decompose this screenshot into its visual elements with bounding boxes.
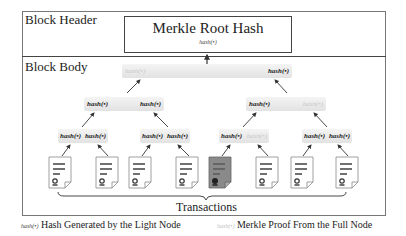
hash-generated-label: hash(•)	[329, 129, 350, 143]
tree-node-l3-4: hash(•) hash(•)	[302, 129, 352, 143]
legend-item-proof: hash(•) Merkle Proof From the Full Node	[217, 219, 372, 230]
hash-generated-label: hash(•)	[167, 129, 188, 143]
legend-generated-text: Hash Generated by the Light Node	[41, 219, 181, 230]
transaction-document-icon	[290, 156, 314, 189]
transaction-document-icon	[335, 156, 359, 189]
transaction-document-icon	[95, 156, 119, 189]
hash-generated-label: hash(•)	[268, 64, 289, 78]
transaction-document-icon	[48, 156, 72, 189]
legend-item-generated: hash(•) Hash Generated by the Light Node	[21, 219, 181, 230]
hash-generated-label: hash(•)	[142, 129, 163, 143]
hash-generated-label: hash(•)	[85, 129, 106, 143]
hash-generated-label: hash(•)	[140, 97, 161, 111]
tree-node-l3-3: hash(•) hash(•)	[219, 129, 269, 143]
hash-generated-label: hash(•)	[87, 97, 108, 111]
legend-proof-text: Merkle Proof From the Full Node	[237, 219, 372, 230]
tree-node-l1: hash(•) hash(•)	[122, 64, 292, 78]
legend-proof-tag: hash(•)	[217, 223, 234, 229]
hash-proof-label: hash(•)	[125, 64, 145, 78]
transaction-document-icon	[175, 156, 199, 189]
hash-generated-label: hash(•)	[304, 129, 325, 143]
transaction-document-icon	[128, 156, 152, 189]
transaction-document-icon	[255, 156, 279, 189]
hash-generated-label: hash(•)	[60, 129, 81, 143]
hash-proof-label: hash(•)	[247, 129, 267, 143]
hash-generated-label: hash(•)	[221, 129, 242, 143]
tree-node-l3-2: hash(•) hash(•)	[140, 129, 190, 143]
hash-generated-label: hash(•)	[249, 97, 270, 111]
tree-node-l2-left: hash(•) hash(•)	[84, 97, 164, 111]
transaction-document-icon-highlighted	[208, 156, 232, 189]
legend-generated-tag: hash(•)	[21, 223, 38, 229]
transactions-label: Transactions	[176, 200, 237, 215]
hash-proof-label: hash(•)	[303, 97, 323, 111]
tree-node-l2-right: hash(•) hash(•)	[246, 97, 326, 111]
tree-node-l3-1: hash(•) hash(•)	[58, 129, 108, 143]
